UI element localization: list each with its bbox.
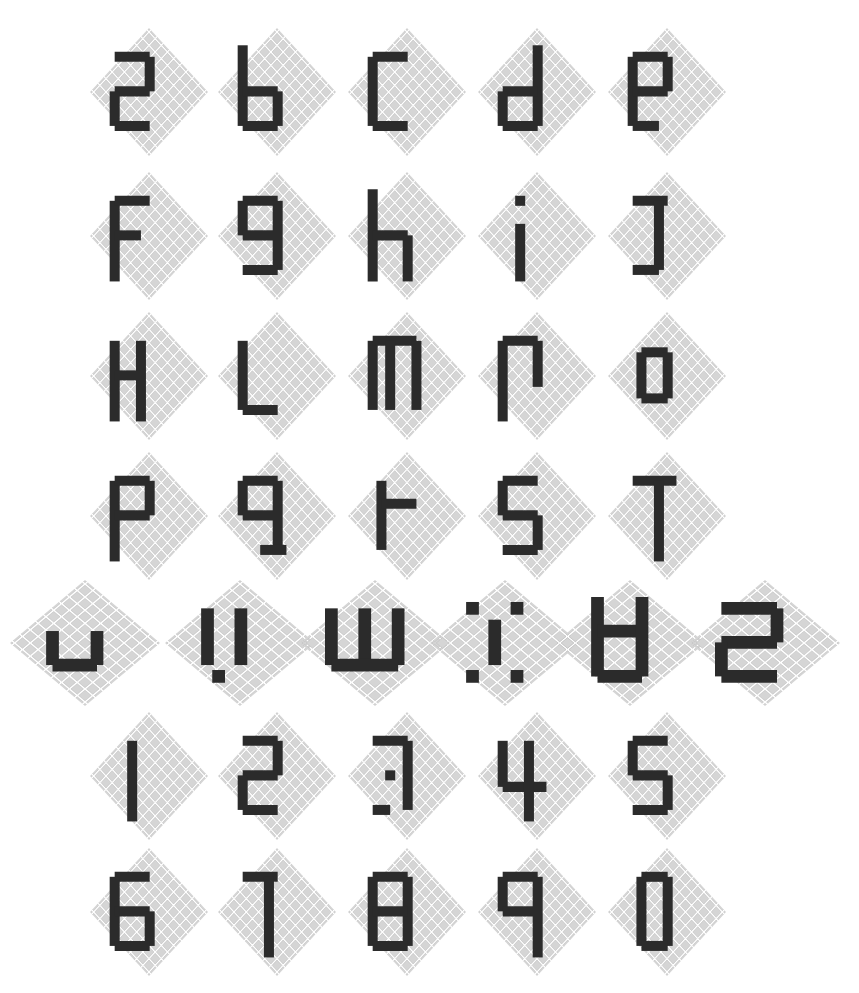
- glyph-0-diamond: 0: [608, 848, 726, 976]
- glyph-e: e: [608, 28, 726, 156]
- glyph-v-diamond: v: [165, 580, 315, 706]
- glyph-q: q: [218, 452, 336, 580]
- glyph-l-diamond: L: [218, 312, 336, 440]
- glyph-t-diamond: T: [608, 452, 726, 580]
- glyph-b-diamond: b: [218, 28, 336, 156]
- glyph-d: d: [478, 28, 596, 156]
- glyph-6: 6: [90, 848, 208, 976]
- glyph-u: u: [10, 580, 160, 706]
- glyph-6-diamond: 6: [90, 848, 208, 976]
- glyph-y: y: [555, 580, 705, 706]
- glyph-9-diamond: 9: [478, 848, 596, 976]
- glyph-g: g: [218, 172, 336, 300]
- glyph-k-diamond: K: [90, 312, 208, 440]
- glyph-l: L: [218, 312, 336, 440]
- glyph-i-diamond: i: [478, 172, 596, 300]
- glyph-4-diamond: 4: [478, 712, 596, 840]
- glyph-w: w: [300, 580, 450, 706]
- glyph-r-diamond: r: [348, 452, 466, 580]
- glyph-4: 4: [478, 712, 596, 840]
- glyph-o-diamond: o: [608, 312, 726, 440]
- glyph-j-diamond: J: [608, 172, 726, 300]
- glyph-9: 9: [478, 848, 596, 976]
- glyph-c: c: [348, 28, 466, 156]
- glyph-v: v: [165, 580, 315, 706]
- glyph-z: z: [690, 580, 840, 706]
- glyph-s-diamond: S: [478, 452, 596, 580]
- glyph-3-diamond: 3: [348, 712, 466, 840]
- glyph-m-diamond: m: [348, 312, 466, 440]
- glyph-a-diamond: a: [90, 28, 208, 156]
- glyph-2: 2: [218, 712, 336, 840]
- glyph-n: n: [478, 312, 596, 440]
- glyph-8: 8: [348, 848, 466, 976]
- glyph-h-diamond: h: [348, 172, 466, 300]
- glyph-g-diamond: g: [218, 172, 336, 300]
- glyph-7-diamond: 7: [218, 848, 336, 976]
- glyph-a: a: [90, 28, 208, 156]
- glyph-7: 7: [218, 848, 336, 976]
- glyph-d-diamond: d: [478, 28, 596, 156]
- glyph-o: o: [608, 312, 726, 440]
- glyph-j: J: [608, 172, 726, 300]
- alphabet-chart-sheet: Diamond Grid Alphabet Chart Hand-drawn s…: [0, 0, 859, 993]
- glyph-0: 0: [608, 848, 726, 976]
- glyph-f: F: [90, 172, 208, 300]
- glyph-k: K: [90, 312, 208, 440]
- glyph-f-diamond: F: [90, 172, 208, 300]
- glyph-1-diamond: 1: [90, 712, 208, 840]
- glyph-s: S: [478, 452, 596, 580]
- glyph-1: 1: [90, 712, 208, 840]
- glyph-m: m: [348, 312, 466, 440]
- glyph-y-diamond: y: [555, 580, 705, 706]
- glyph-8-diamond: 8: [348, 848, 466, 976]
- glyph-5-diamond: 5: [608, 712, 726, 840]
- glyph-p-diamond: P: [90, 452, 208, 580]
- glyph-i: i: [478, 172, 596, 300]
- glyph-w-diamond: w: [300, 580, 450, 706]
- glyph-h: h: [348, 172, 466, 300]
- glyph-2-diamond: 2: [218, 712, 336, 840]
- glyph-b: b: [218, 28, 336, 156]
- glyph-3: 3: [348, 712, 466, 840]
- glyph-r: r: [348, 452, 466, 580]
- glyph-z-diamond: z: [690, 580, 840, 706]
- glyph-p: P: [90, 452, 208, 580]
- glyph-5: 5: [608, 712, 726, 840]
- glyph-e-diamond: e: [608, 28, 726, 156]
- glyph-c-diamond: c: [348, 28, 466, 156]
- glyph-q-diamond: q: [218, 452, 336, 580]
- glyph-t: T: [608, 452, 726, 580]
- glyph-n-diamond: n: [478, 312, 596, 440]
- glyph-u-diamond: u: [10, 580, 160, 706]
